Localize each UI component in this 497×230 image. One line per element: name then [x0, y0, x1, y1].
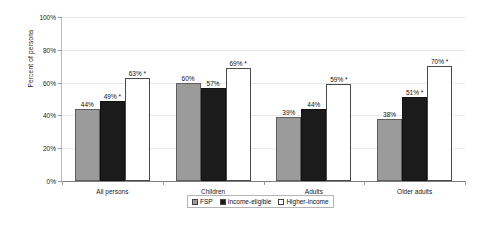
x-tick-mark [163, 181, 164, 185]
bar-group-bars: 60%57%69% * [163, 17, 264, 181]
x-tick-mark [62, 181, 63, 185]
bar-value-label: 59% * [330, 76, 347, 83]
y-tick-label: 80% [43, 46, 56, 53]
bar-value-label: 39% [282, 109, 295, 116]
white-swatch-icon [278, 199, 284, 205]
y-tick-label: 60% [43, 79, 56, 86]
bar-group-bars: 38%51% *70% * [364, 17, 465, 181]
bar-value-label: 60% [182, 75, 195, 82]
bar-income-eligible[interactable]: 51% * [402, 97, 427, 181]
bar-higher-income[interactable]: 63% * [125, 78, 150, 181]
bar-higher-income[interactable]: 69% * [226, 68, 251, 181]
legend-item[interactable]: FSP [192, 198, 213, 205]
bar-group-bars: 44%49% *63% * [62, 17, 163, 181]
bar-value-label: 44% [307, 101, 320, 108]
bar-income-eligible[interactable]: 49% * [100, 101, 125, 181]
legend-item[interactable]: Income-eligible [220, 198, 272, 205]
x-category-label: All persons [96, 188, 128, 195]
bar-group: 38%51% *70% *Older adults [364, 17, 465, 181]
bar-fsp[interactable]: 39% [276, 117, 301, 181]
bar-fsp[interactable]: 60% [176, 83, 201, 181]
bar-value-label: 69% * [229, 60, 246, 67]
bar-fsp[interactable]: 44% [75, 109, 100, 181]
bar-higher-income[interactable]: 59% * [326, 84, 351, 181]
y-tick-label: 20% [43, 145, 56, 152]
bar-value-label: 57% [207, 80, 220, 87]
legend-item[interactable]: Higher-income [278, 198, 328, 205]
legend-item-label: FSP [200, 198, 213, 205]
x-category-label: Adults [305, 188, 323, 195]
bar-group: 60%57%69% *Children [163, 17, 264, 181]
chart-legend: FSPIncome-eligibleHigher-income [187, 195, 334, 208]
bar-income-eligible[interactable]: 57% [201, 88, 226, 181]
bar-value-label: 38% [383, 111, 396, 118]
black-swatch-icon [220, 199, 226, 205]
x-category-label: Older adults [397, 188, 432, 195]
y-tick-label: 0% [47, 178, 56, 185]
x-tick-mark [465, 181, 466, 185]
bar-value-label: 51% * [406, 89, 423, 96]
legend-item-label: Income-eligible [228, 198, 272, 205]
gray-swatch-icon [192, 199, 198, 205]
bar-higher-income[interactable]: 70% * [427, 66, 452, 181]
bar-value-label: 44% [81, 101, 94, 108]
plot-area: 100%80%60%40%20%0% 44%49% *63% *All pers… [62, 17, 465, 181]
bar-group: 44%49% *63% *All persons [62, 17, 163, 181]
bar-value-label: 63% * [129, 70, 146, 77]
bar-group: 39%44%59% *Adults [264, 17, 365, 181]
y-tick-label: 100% [39, 14, 56, 21]
x-tick-mark [364, 181, 365, 185]
x-category-label: Children [201, 188, 225, 195]
bar-value-label: 70% * [431, 58, 448, 65]
x-tick-mark [264, 181, 265, 185]
bar-value-label: 49% * [104, 93, 121, 100]
bar-chart-figure: Percent of persons 100%80%60%40%20%0% 44… [0, 0, 497, 230]
legend-item-label: Higher-income [286, 198, 328, 205]
bar-group-bars: 39%44%59% * [264, 17, 365, 181]
bar-income-eligible[interactable]: 44% [301, 109, 326, 181]
y-axis-title: Percent of persons [27, 0, 34, 124]
y-tick-label: 40% [43, 112, 56, 119]
bar-fsp[interactable]: 38% [377, 119, 402, 181]
